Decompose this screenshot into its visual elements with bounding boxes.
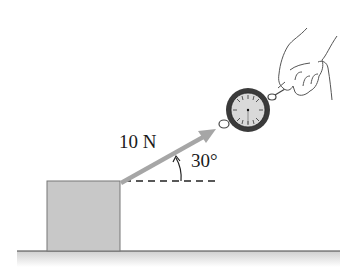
block [47, 181, 120, 251]
force-diagram [0, 0, 362, 269]
angle-arc-icon [173, 156, 181, 181]
angle-label: 30° [191, 150, 218, 172]
floor [17, 251, 340, 267]
spring-scale-icon [219, 86, 290, 132]
force-magnitude-label: 10 N [119, 131, 156, 153]
hand-icon [278, 28, 337, 100]
